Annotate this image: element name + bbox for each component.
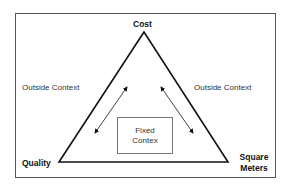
outside-context-left: Outside Context	[22, 84, 79, 92]
vertex-label-quality: Quality	[22, 159, 51, 168]
fixed-context-line1: Fixed	[135, 126, 155, 136]
fixed-context-box: Fixed Contex	[117, 117, 173, 154]
vertex-label-cost: Cost	[133, 20, 152, 29]
vertex-label-square: Square	[236, 153, 272, 162]
vertex-label-square-meters: Square Meters	[236, 153, 272, 172]
outside-context-right: Outside Context	[194, 84, 251, 92]
vertex-label-meters: Meters	[236, 164, 272, 173]
fixed-context-line2: Contex	[132, 136, 157, 146]
